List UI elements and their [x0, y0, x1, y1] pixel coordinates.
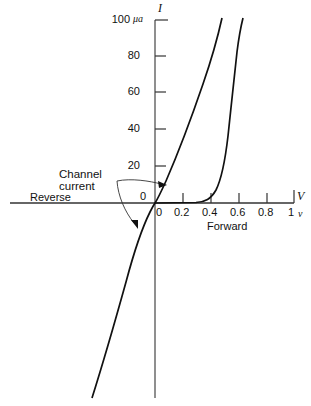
- x-axis-unit: v: [298, 208, 302, 219]
- y-tick-label-80: 80: [112, 50, 140, 61]
- y-tick-label-0: 0: [118, 191, 146, 202]
- y-axis-symbol: I: [158, 3, 162, 14]
- y-tick-label-20: 20: [112, 160, 140, 171]
- channel-current-callout-line1: Channel: [59, 168, 102, 181]
- callout-arc-lower: [117, 181, 134, 223]
- forward-region-label: Forward: [207, 221, 247, 232]
- x-tick-label-0.2: 0.2: [174, 207, 189, 218]
- reverse-region-label: Reverse: [30, 192, 71, 203]
- y-axis-ticks: [155, 20, 168, 166]
- chart-canvas: [0, 0, 311, 406]
- y-tick-label-100: 100: [102, 14, 130, 25]
- x-tick-label-0.6: 0.6: [230, 207, 245, 218]
- y-tick-label-60: 60: [112, 86, 140, 97]
- y-tick-label-40: 40: [112, 123, 140, 134]
- x-tick-label-0.4: 0.4: [202, 207, 217, 218]
- x-axis-symbol: V: [297, 191, 304, 202]
- x-tick-label-0.8: 0.8: [258, 207, 273, 218]
- x-tick-label-0: 0: [156, 207, 162, 218]
- x-axis-ticks: [183, 190, 294, 203]
- channel-current-callout-line2: current: [59, 180, 95, 193]
- x-tick-label-1: 1: [288, 207, 294, 218]
- y-axis-unit: μa: [133, 13, 143, 24]
- callout-arc-upper: [117, 180, 161, 184]
- iv-characteristic-figure: I μa V v 100 80 60 40 20 0 0 0.2 0.4 0.6…: [0, 0, 311, 406]
- callout-arrowhead-lower: [131, 220, 138, 229]
